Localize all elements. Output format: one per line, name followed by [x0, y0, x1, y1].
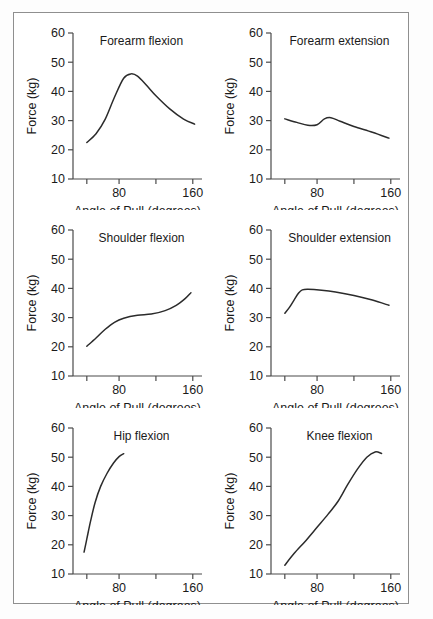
y-tick-label: 50	[51, 450, 65, 464]
panel-title: Knee flexion	[307, 429, 373, 443]
y-tick-label: 60	[51, 421, 65, 435]
panel-title: Shoulder extension	[288, 231, 391, 245]
y-tick-label: 40	[249, 282, 263, 296]
y-tick-label: 30	[51, 114, 65, 128]
x-axis-title: Angle of Pull (degrees)	[74, 599, 201, 605]
y-tick-label: 30	[249, 509, 263, 523]
y-tick-label: 40	[249, 85, 263, 99]
x-tick-label: 160	[182, 186, 203, 200]
y-tick-label: 20	[249, 341, 263, 355]
chart-panel: 10203040506080160Forearm flexionForce (k…	[14, 13, 212, 210]
x-tick-label: 160	[182, 383, 203, 397]
y-tick-label: 50	[249, 56, 263, 70]
y-tick-label: 10	[51, 172, 65, 186]
y-tick-label: 10	[51, 567, 65, 581]
data-curve	[87, 74, 195, 143]
chart-panel: 10203040506080160Shoulder extensionForce…	[212, 210, 410, 407]
x-tick-label: 160	[380, 383, 401, 397]
y-tick-label: 20	[249, 143, 263, 157]
y-tick-label: 50	[51, 253, 65, 267]
y-tick-label: 20	[51, 341, 65, 355]
y-tick-label: 10	[51, 370, 65, 384]
data-curve	[285, 118, 389, 139]
chart-panel: 10203040506080160Shoulder flexionForce (…	[14, 210, 212, 407]
panel-title: Forearm extension	[290, 34, 390, 48]
y-tick-label: 30	[249, 311, 263, 325]
y-tick-label: 40	[51, 282, 65, 296]
y-axis-title: Force (kg)	[223, 275, 237, 332]
panel-title: Hip flexion	[114, 429, 170, 443]
panel-title: Forearm flexion	[100, 34, 183, 48]
y-tick-label: 30	[51, 509, 65, 523]
x-tick-label: 80	[310, 186, 324, 200]
y-tick-label: 60	[249, 421, 263, 435]
chart-panel: 10203040506080160Forearm extensionForce …	[212, 13, 410, 210]
y-tick-label: 60	[51, 26, 65, 40]
y-axis-title: Force (kg)	[25, 78, 39, 135]
chart-panel: 10203040506080160Knee flexionForce (kg)A…	[212, 408, 410, 605]
y-tick-label: 10	[249, 370, 263, 384]
y-tick-label: 50	[249, 253, 263, 267]
y-axis-title: Force (kg)	[25, 275, 39, 332]
y-tick-label: 60	[51, 224, 65, 238]
x-tick-label: 160	[380, 581, 401, 595]
y-tick-label: 20	[249, 538, 263, 552]
y-tick-label: 60	[249, 224, 263, 238]
y-tick-label: 50	[51, 56, 65, 70]
x-tick-label: 160	[380, 186, 401, 200]
y-axis-title: Force (kg)	[25, 472, 39, 529]
y-tick-label: 20	[51, 143, 65, 157]
x-tick-label: 160	[182, 581, 203, 595]
y-tick-label: 30	[51, 311, 65, 325]
x-tick-label: 80	[112, 581, 126, 595]
x-tick-label: 80	[112, 186, 126, 200]
y-axis-title: Force (kg)	[223, 472, 237, 529]
x-tick-label: 80	[112, 383, 126, 397]
chart-panel-grid: 10203040506080160Forearm flexionForce (k…	[14, 13, 410, 605]
y-tick-label: 50	[249, 450, 263, 464]
x-tick-label: 80	[310, 581, 324, 595]
y-tick-label: 30	[249, 114, 263, 128]
y-tick-label: 40	[51, 85, 65, 99]
y-tick-label: 60	[249, 26, 263, 40]
chart-panel: 10203040506080160Hip flexionForce (kg)An…	[14, 408, 212, 605]
y-tick-label: 40	[249, 480, 263, 494]
x-axis-title: Angle of Pull (degrees)	[272, 599, 399, 605]
data-curve	[285, 290, 389, 314]
panel-title: Shoulder flexion	[99, 231, 185, 245]
data-curve	[285, 451, 382, 564]
figure-root: 10203040506080160Forearm flexionForce (k…	[0, 0, 433, 619]
y-tick-label: 20	[51, 538, 65, 552]
x-tick-label: 80	[310, 383, 324, 397]
y-tick-label: 40	[51, 480, 65, 494]
data-curve	[87, 293, 191, 346]
y-axis-title: Force (kg)	[223, 78, 237, 135]
y-tick-label: 10	[249, 172, 263, 186]
data-curve	[84, 453, 124, 551]
figure-border-frame: 10203040506080160Forearm flexionForce (k…	[13, 12, 409, 604]
y-tick-label: 10	[249, 567, 263, 581]
